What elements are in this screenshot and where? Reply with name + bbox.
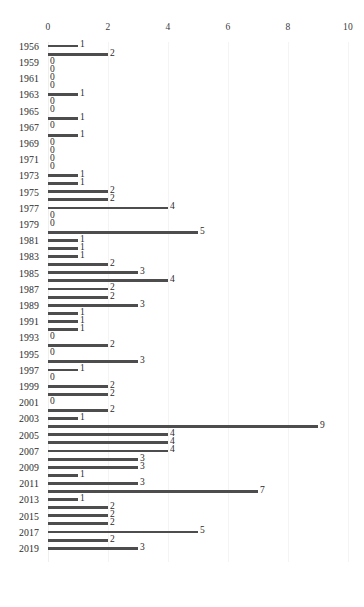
bar-row[interactable]: 1 [48, 236, 348, 244]
bar[interactable] [48, 539, 108, 542]
bar-row[interactable]: 2 [48, 285, 348, 293]
bar-row[interactable]: 0 [48, 350, 348, 358]
bar[interactable] [48, 190, 108, 193]
bar-row[interactable]: 3 [48, 269, 348, 277]
bar-row[interactable]: 1 [48, 309, 348, 317]
bar-row[interactable]: 1 [48, 253, 348, 261]
bar-row[interactable]: 0 [48, 212, 348, 220]
bar[interactable] [48, 531, 198, 534]
bar[interactable] [48, 263, 108, 266]
bar-row[interactable]: 1 [48, 326, 348, 334]
bar[interactable] [48, 506, 108, 509]
bar[interactable] [48, 474, 78, 477]
bar-row[interactable]: 1 [48, 42, 348, 50]
bar[interactable] [48, 182, 78, 185]
bar-row[interactable]: 4 [48, 204, 348, 212]
bar[interactable] [48, 198, 108, 201]
bar[interactable] [48, 271, 138, 274]
bar-row[interactable]: 2 [48, 382, 348, 390]
bar[interactable] [48, 393, 108, 396]
bar-row[interactable]: 0 [48, 334, 348, 342]
bar[interactable] [48, 385, 108, 388]
bar-row[interactable]: 2 [48, 536, 348, 544]
bar-row[interactable]: 2 [48, 293, 348, 301]
bar-row[interactable]: 0 [48, 66, 348, 74]
bar-row[interactable]: 0 [48, 155, 348, 163]
bar-row[interactable]: 2 [48, 188, 348, 196]
bar[interactable] [48, 231, 198, 234]
bar-row[interactable]: 0 [48, 374, 348, 382]
bar[interactable] [48, 344, 108, 347]
bar-row[interactable]: 0 [48, 58, 348, 66]
bar[interactable] [48, 53, 108, 56]
bar[interactable] [48, 482, 138, 485]
bar-row[interactable]: 0 [48, 74, 348, 82]
bar-row[interactable]: 2 [48, 504, 348, 512]
bar-row[interactable]: 4 [48, 431, 348, 439]
bar-row[interactable]: 0 [48, 107, 348, 115]
bar-row[interactable]: 2 [48, 390, 348, 398]
bar[interactable] [48, 450, 168, 453]
bar[interactable] [48, 547, 138, 550]
bar-row[interactable]: 2 [48, 512, 348, 520]
y-tick-label-1975: 1975 [19, 187, 39, 198]
bar[interactable] [48, 514, 108, 517]
bar-row[interactable]: 2 [48, 261, 348, 269]
bar-row[interactable]: 1 [48, 366, 348, 374]
bar[interactable] [48, 239, 78, 242]
bar-row[interactable]: 0 [48, 99, 348, 107]
bar[interactable] [48, 312, 78, 315]
bar-row[interactable]: 0 [48, 398, 348, 406]
bar-row[interactable]: 2 [48, 342, 348, 350]
bar[interactable] [48, 433, 168, 436]
bar-row[interactable]: 3 [48, 463, 348, 471]
bar[interactable] [48, 498, 78, 501]
bar-row[interactable]: 1 [48, 245, 348, 253]
bar[interactable] [48, 296, 108, 299]
bar-row[interactable]: 1 [48, 91, 348, 99]
bar[interactable] [48, 441, 168, 444]
bar-row[interactable]: 2 [48, 407, 348, 415]
bar[interactable] [48, 458, 138, 461]
bar[interactable] [48, 360, 138, 363]
bar-row[interactable]: 1 [48, 415, 348, 423]
bar-row[interactable]: 3 [48, 358, 348, 366]
bar-row[interactable]: 9 [48, 423, 348, 431]
bar-row[interactable]: 5 [48, 528, 348, 536]
bar[interactable] [48, 288, 108, 291]
bar-row[interactable]: 2 [48, 196, 348, 204]
bar[interactable] [48, 247, 78, 250]
bar-row[interactable]: 0 [48, 123, 348, 131]
bar-row[interactable]: 1 [48, 115, 348, 123]
bar[interactable] [48, 425, 318, 428]
bar[interactable] [48, 255, 78, 258]
bar[interactable] [48, 466, 138, 469]
bar[interactable] [48, 45, 78, 48]
bar-row[interactable]: 4 [48, 447, 348, 455]
bar-row[interactable]: 4 [48, 439, 348, 447]
bar-row[interactable]: 0 [48, 83, 348, 91]
bar-row[interactable]: 7 [48, 488, 348, 496]
bar-row[interactable]: 3 [48, 544, 348, 552]
bar-row[interactable]: 1 [48, 180, 348, 188]
bar[interactable] [48, 522, 108, 525]
bar[interactable] [48, 417, 78, 420]
bar[interactable] [48, 304, 138, 307]
bar-row[interactable]: 1 [48, 496, 348, 504]
bar-row[interactable]: 0 [48, 147, 348, 155]
bar-row[interactable]: 0 [48, 164, 348, 172]
bar-row[interactable]: 1 [48, 471, 348, 479]
bar-row[interactable]: 3 [48, 479, 348, 487]
bar-row[interactable]: 5 [48, 228, 348, 236]
bar-row[interactable]: 1 [48, 317, 348, 325]
bar[interactable] [48, 174, 78, 177]
bar-row[interactable]: 2 [48, 50, 348, 58]
bar-row[interactable]: 0 [48, 139, 348, 147]
bar-row[interactable]: 1 [48, 172, 348, 180]
bar-row[interactable]: 4 [48, 277, 348, 285]
bar[interactable] [48, 207, 168, 210]
bar-row[interactable]: 3 [48, 455, 348, 463]
bar[interactable] [48, 320, 78, 323]
bar-row[interactable]: 3 [48, 301, 348, 309]
bar-row[interactable]: 1 [48, 131, 348, 139]
